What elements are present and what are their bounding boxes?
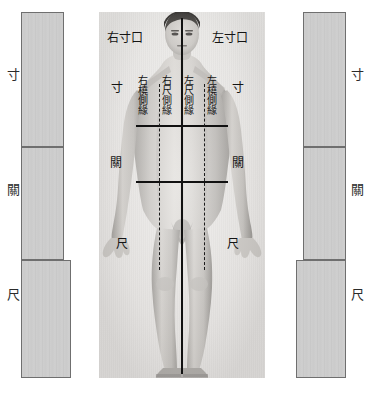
right-gauge-segment-cun [303,12,346,147]
left-gauge-segment-cun [21,12,64,147]
cun-guan-horizontal-line [136,125,228,127]
body-label-right-chi: 尺 [116,238,128,250]
anatomy-photo-panel: 右寸口 左寸口 右橈側緣 右尺側緣 左尺側緣 左橈側緣 寸 寸 關 關 尺 尺 [99,12,265,378]
pulse-diagram-root: 寸 關 尺 寸 關 尺 [0,0,369,397]
guan-chi-horizontal-line [136,181,228,183]
body-label-left-chi: 尺 [227,238,239,250]
left-gauge-label-guan: 關 [6,183,20,196]
label-left-cunkou: 左寸口 [212,32,248,44]
right-gauge-segment-chi [296,260,346,378]
body-label-right-cun: 寸 [111,82,123,94]
left-gauge-segment-guan [21,147,64,260]
label-right-ulnar-edge: 右尺側緣 [160,75,170,115]
left-gauge-segment-chi [21,260,71,378]
right-gauge-segment-guan [303,147,346,260]
left-gauge-label-chi: 尺 [6,288,20,301]
right-gauge-label-chi: 尺 [350,288,364,301]
label-left-ulnar-edge: 左尺側緣 [182,75,192,115]
label-right-cunkou: 右寸口 [107,32,143,44]
body-label-right-guan: 關 [110,157,122,169]
midline-vertical [181,18,183,374]
left-gauge-label-cun: 寸 [6,68,20,81]
right-gauge-label-cun: 寸 [350,68,364,81]
right-gauge-label-guan: 關 [350,183,364,196]
body-label-left-cun: 寸 [232,82,244,94]
label-right-radial-edge: 右橈側緣 [136,75,146,115]
label-left-radial-edge: 左橈側緣 [205,75,215,115]
body-label-left-guan: 關 [232,157,244,169]
